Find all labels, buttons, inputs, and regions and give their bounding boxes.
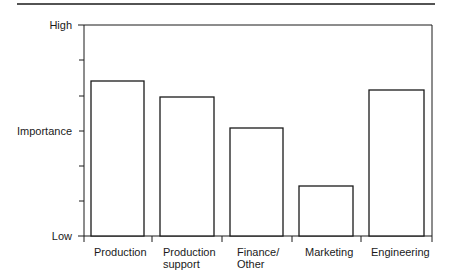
bar-engineering [369, 90, 424, 236]
y-label-high: High [49, 19, 72, 31]
bar-production-support [160, 97, 214, 236]
x-axis-ticks [152, 236, 361, 242]
bars [91, 81, 424, 236]
x-label-engineering: Engineering [371, 246, 430, 258]
x-label-marketing: Marketing [305, 246, 353, 258]
x-label-production-support-line1: Production [163, 246, 216, 258]
y-label-low: Low [52, 230, 72, 242]
bar-marketing [299, 186, 353, 236]
x-label-production: Production [94, 246, 147, 258]
y-axis-title: Importance [17, 125, 72, 137]
importance-bar-chart: High Importance Low Production Productio… [0, 0, 452, 280]
bar-finance-other [230, 128, 283, 236]
y-axis-ticks [78, 25, 84, 201]
x-label-finance-line1: Finance/ [237, 246, 280, 258]
bar-production [91, 81, 144, 236]
x-label-production-support-line2: support [163, 258, 200, 270]
x-label-finance-line2: Other [237, 258, 265, 270]
